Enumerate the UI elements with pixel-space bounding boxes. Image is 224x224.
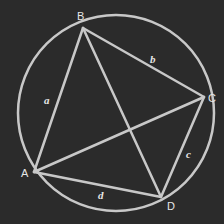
side-label-d: d <box>98 189 104 201</box>
vertex-label-d: D <box>167 200 175 212</box>
side-label-a: a <box>44 94 50 106</box>
circumscribed-circle <box>18 15 214 211</box>
vertex-label-a: A <box>21 167 29 179</box>
vertex-label-b: B <box>77 10 84 22</box>
cyclic-quadrilateral-figure: A B C D a b c d <box>0 0 224 224</box>
vertex-label-c: C <box>208 92 216 104</box>
side-b-line <box>83 28 204 97</box>
diagram-canvas: A B C D a b c d <box>0 0 224 224</box>
side-label-b: b <box>150 53 156 65</box>
side-label-c: c <box>186 148 191 160</box>
